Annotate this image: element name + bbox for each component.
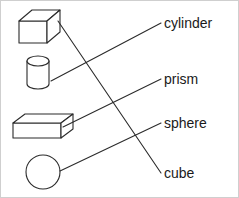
prism-front-face: [13, 123, 61, 138]
cube-figure[interactable]: [19, 10, 60, 43]
label-cube[interactable]: cube: [164, 166, 194, 180]
connector-cylinder-to-cylinder[interactable]: [51, 23, 161, 81]
cube-front-face: [19, 21, 47, 43]
sphere-figure[interactable]: [26, 155, 60, 189]
connector-prism-to-prism[interactable]: [63, 79, 161, 127]
cylinder-top-ellipse: [27, 56, 49, 66]
label-prism[interactable]: prism: [164, 72, 198, 86]
shape-matching-worksheet: cylinder prism sphere cube: [0, 0, 239, 198]
connector-sphere-to-sphere[interactable]: [60, 123, 161, 171]
cylinder-figure[interactable]: [27, 56, 49, 89]
label-sphere[interactable]: sphere: [164, 116, 207, 130]
label-cylinder[interactable]: cylinder: [164, 16, 212, 30]
sphere-circle: [26, 155, 60, 189]
connector-cube-to-cube[interactable]: [58, 21, 161, 173]
